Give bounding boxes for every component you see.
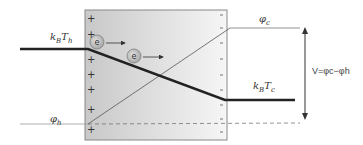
voltage-label: V=φc−φh [312,66,350,76]
cold-potential-label: φc [259,13,270,27]
svg-text:+: + [87,124,95,135]
hot-energy-label: kBTh [50,31,72,45]
svg-text:+: + [87,69,95,80]
svg-text:+: + [87,13,95,24]
svg-text:+: + [87,54,95,65]
svg-text:e: e [95,38,100,47]
svg-text:e: e [132,52,137,61]
svg-text:+: + [87,84,95,95]
hot-potential-label: φh [50,113,62,127]
voltage-arrow [302,27,308,120]
svg-text:+: + [87,104,95,115]
cold-energy-label: kBTc [253,80,275,94]
